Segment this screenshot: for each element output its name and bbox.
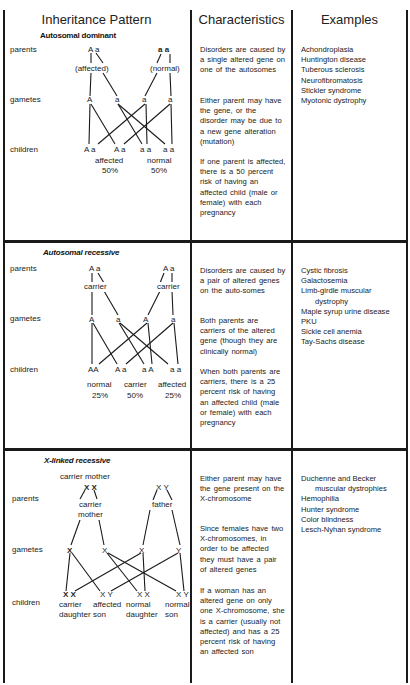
example-item: Hunter syndrome — [301, 505, 407, 515]
characteristic-paragraph: Both parents are carriers of the altered… — [200, 316, 286, 357]
example-item: muscular dystrophies — [301, 484, 407, 494]
example-item: Tay-Sachs disease — [301, 337, 407, 347]
parent2-genotype: X Y — [156, 483, 169, 493]
example-item: Sickle cell anemia — [301, 327, 407, 337]
characteristic-paragraph: If a woman has an altered gene on only o… — [200, 586, 286, 657]
outcome-normal-daughter-line1: normal — [126, 600, 150, 610]
example-item: Achondroplasia — [301, 45, 407, 55]
gamete-1: X — [67, 546, 72, 556]
example-item: Cystic fibrosis — [301, 266, 407, 276]
gamete-2: X — [102, 546, 107, 556]
child-4: X Y — [176, 590, 189, 600]
outcome-normal-son-line1: normal — [165, 600, 189, 610]
example-item: Limb-girdle muscular — [301, 286, 407, 296]
example-item: dystrophy — [301, 297, 407, 307]
example-item: Huntington disease — [301, 55, 407, 65]
child-1: X X — [63, 590, 76, 600]
gamete-3: X — [139, 546, 144, 556]
parent1-genotype: X X — [84, 483, 97, 493]
child-2: X Y — [100, 590, 113, 600]
examples-list: Achondroplasia Huntington disease Tubero… — [301, 45, 407, 106]
header-examples: Examples — [293, 12, 406, 27]
characteristic-paragraph: Since females have two X-chromosomes, in… — [200, 524, 286, 575]
characteristic-paragraph: If one parent is affected, there is a 50… — [200, 157, 286, 218]
outcome-affected-son-line2: son — [93, 610, 106, 620]
examples-list: Duchenne and Becker muscular dystrophies… — [301, 474, 407, 535]
example-item: Galactosemia — [301, 276, 407, 286]
parent2-label: father — [152, 500, 172, 510]
examples-list: Cystic fibrosis Galactosemia Limb-girdle… — [301, 266, 407, 348]
example-item: Maple syrup urine disease — [301, 307, 407, 317]
characteristic-paragraph: Disorders are caused by a pair of altere… — [200, 266, 286, 297]
outcome-normal-son-line2: son — [165, 610, 178, 620]
parent1-label-line1: carrier — [79, 500, 102, 510]
header-characteristics: Characteristics — [192, 12, 291, 27]
outcome-carrier-daughter-line2: daughter — [59, 610, 91, 620]
characteristic-paragraph: Either parent may have the gene, or the … — [200, 96, 286, 147]
characteristic-paragraph: Disorders are caused by a single altered… — [200, 45, 286, 76]
outcome-affected-son-line1: affected — [93, 600, 121, 610]
example-item: Lesch-Nyhan syndrome — [301, 525, 407, 535]
example-item: Neurofibromatosis — [301, 76, 407, 86]
pedigree-lines — [0, 0, 190, 685]
outcome-normal-daughter-line2: daughter — [126, 610, 158, 620]
example-item: PKU — [301, 317, 407, 327]
characteristic-paragraph: When both parents are carriers, there is… — [200, 367, 286, 428]
parent1-top-label: carrier mother — [60, 472, 110, 482]
example-item: Stickler syndrome — [301, 86, 407, 96]
example-item: Duchenne and Becker — [301, 474, 407, 484]
example-item: Color blindness — [301, 515, 407, 525]
outcome-carrier-daughter-line1: carrier — [59, 600, 82, 610]
child-3: X X — [137, 590, 150, 600]
parent1-label-line2: mother — [78, 510, 103, 520]
column-divider-2 — [291, 10, 293, 683]
example-item: Tuberous sclerosis — [301, 65, 407, 75]
characteristic-paragraph: Either parent may have the gene present … — [200, 474, 286, 505]
example-item: Hemophilia — [301, 494, 407, 504]
column-divider-1 — [190, 10, 192, 683]
gamete-4: Y — [176, 546, 181, 556]
example-item: Myotonic dystrophy — [301, 96, 407, 106]
